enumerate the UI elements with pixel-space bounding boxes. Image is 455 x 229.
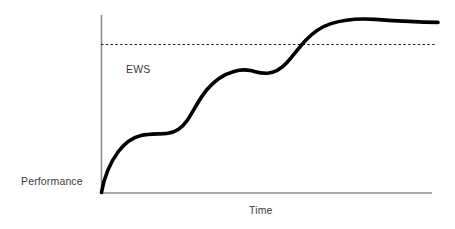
figure-container: Performance EWS Time xyxy=(0,0,455,229)
performance-curve-chart xyxy=(0,0,455,229)
ews-threshold-label: EWS xyxy=(126,63,150,75)
x-axis-label: Time xyxy=(249,204,273,216)
y-axis-label: Performance xyxy=(21,175,83,187)
